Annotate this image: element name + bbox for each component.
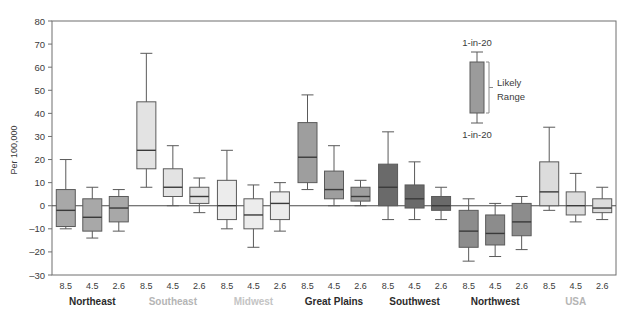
- box-iqr: [432, 196, 451, 210]
- x-axis-group-label: Midwest: [234, 296, 274, 307]
- x-axis-scenario-label: 8.5: [140, 281, 153, 291]
- x-axis-group-label: USA: [565, 296, 586, 307]
- box-iqr: [217, 180, 236, 219]
- x-axis-scenario-label: 2.6: [274, 281, 287, 291]
- y-axis-tick-label: –20: [29, 246, 45, 257]
- box-iqr: [56, 190, 75, 227]
- x-axis-scenario-label: 2.6: [113, 281, 126, 291]
- x-axis-group-label: Great Plains: [305, 296, 364, 307]
- box-iqr: [593, 199, 612, 213]
- box-iqr: [270, 192, 289, 220]
- box-iqr: [325, 171, 344, 199]
- box-iqr: [298, 123, 317, 183]
- y-axis-tick-label: 30: [34, 131, 45, 142]
- x-axis-scenario-label: 4.5: [569, 281, 582, 291]
- y-axis-tick-label: –30: [29, 270, 45, 281]
- x-axis-scenario-label: 4.5: [167, 281, 180, 291]
- box-iqr: [163, 169, 182, 197]
- x-axis-scenario-label: 8.5: [301, 281, 314, 291]
- x-axis-scenario-label: 8.5: [221, 281, 234, 291]
- x-axis-scenario-label: 2.6: [515, 281, 528, 291]
- x-axis-scenario-label: 4.5: [408, 281, 421, 291]
- box-iqr: [83, 199, 102, 231]
- y-axis-tick-label: 50: [34, 85, 45, 96]
- x-axis-scenario-label: 8.5: [60, 281, 73, 291]
- chart-container: –30–20–1001020304050607080Per 100,0008.5…: [0, 0, 622, 320]
- y-axis-tick-label: 70: [34, 39, 45, 50]
- box-iqr: [566, 192, 585, 215]
- x-axis-scenario-label: 4.5: [328, 281, 341, 291]
- box-iqr: [190, 187, 209, 203]
- x-axis-scenario-label: 8.5: [543, 281, 556, 291]
- x-axis-group-label: Northeast: [69, 296, 116, 307]
- y-axis-tick-label: 60: [34, 62, 45, 73]
- box-iqr: [405, 185, 424, 208]
- legend-top-label: 1-in-20: [462, 37, 492, 48]
- legend-box: [470, 62, 484, 113]
- legend-bottom-label: 1-in-20: [462, 129, 492, 140]
- x-axis-scenario-label: 4.5: [489, 281, 502, 291]
- x-axis-scenario-label: 8.5: [462, 281, 475, 291]
- x-axis-scenario-label: 4.5: [247, 281, 260, 291]
- y-axis-tick-label: 80: [34, 16, 45, 27]
- y-axis-tick-label: –10: [29, 223, 45, 234]
- box-iqr: [109, 196, 128, 221]
- x-axis-group-label: Southwest: [389, 296, 440, 307]
- y-axis-tick-label: 20: [34, 154, 45, 165]
- legend-range-label-line2: Range: [497, 91, 525, 102]
- x-axis-scenario-label: 2.6: [596, 281, 609, 291]
- box-iqr: [244, 199, 263, 229]
- box-iqr: [486, 215, 505, 245]
- y-axis-tick-label: 40: [34, 108, 45, 119]
- x-axis-group-label: Northwest: [471, 296, 521, 307]
- box-iqr: [540, 162, 559, 206]
- legend-range-label-line1: Likely: [497, 77, 522, 88]
- x-axis-scenario-label: 8.5: [382, 281, 395, 291]
- box-iqr: [137, 102, 156, 169]
- y-axis-title: Per 100,000: [9, 125, 19, 174]
- x-axis-scenario-label: 2.6: [354, 281, 367, 291]
- y-axis-tick-label: 0: [40, 200, 45, 211]
- x-axis-scenario-label: 2.6: [435, 281, 448, 291]
- boxplot-chart: –30–20–1001020304050607080Per 100,0008.5…: [0, 0, 622, 320]
- box-iqr: [512, 203, 531, 235]
- box-iqr: [459, 210, 478, 247]
- box-iqr: [351, 187, 370, 201]
- x-axis-group-label: Southeast: [149, 296, 198, 307]
- x-axis-scenario-label: 4.5: [86, 281, 99, 291]
- y-axis-tick-label: 10: [34, 177, 45, 188]
- box-iqr: [379, 164, 398, 206]
- x-axis-scenario-label: 2.6: [193, 281, 206, 291]
